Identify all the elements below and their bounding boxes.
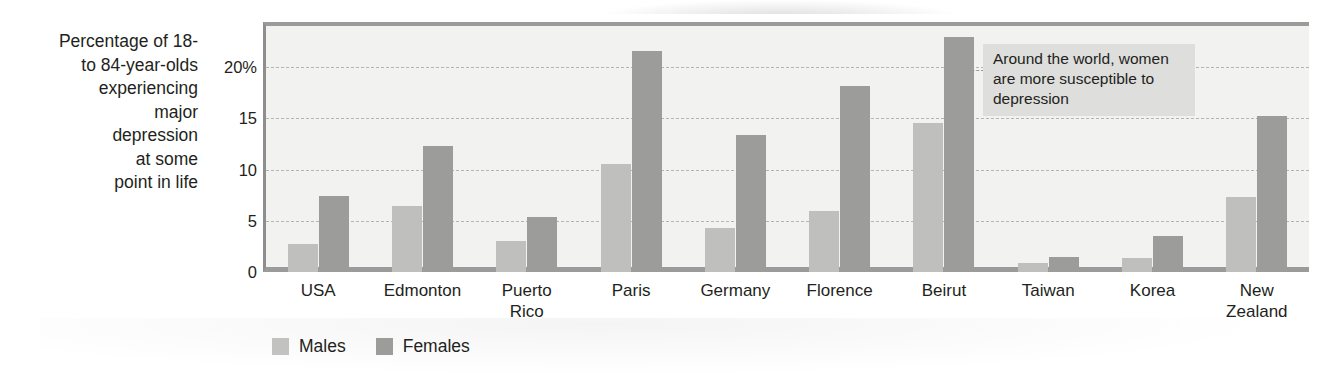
bar-females[interactable] xyxy=(1257,116,1287,272)
bar-males[interactable] xyxy=(705,228,735,272)
bar-group xyxy=(1226,26,1287,272)
x-axis-label: Edmonton xyxy=(370,280,474,301)
bar-males[interactable] xyxy=(496,241,526,272)
y-tick-label-15: 15 xyxy=(197,109,257,128)
legend-label-females: Females xyxy=(403,336,470,357)
x-axis-label: Beirut xyxy=(892,280,996,301)
bar-males[interactable] xyxy=(809,211,839,273)
y-tick-label-20: 20% xyxy=(197,58,257,77)
bar-group xyxy=(288,26,349,272)
bar-females[interactable] xyxy=(736,135,766,272)
bar-females[interactable] xyxy=(1049,257,1079,272)
bar-males[interactable] xyxy=(1122,258,1152,272)
bar-females[interactable] xyxy=(944,37,974,272)
bar-group xyxy=(913,26,974,272)
chart-figure: Percentage of 18- to 84-year-olds experi… xyxy=(0,0,1328,376)
y-axis-tick-labels: 05101520% xyxy=(189,22,257,272)
x-axis-category-labels: USAEdmontonPuerto RicoParisGermanyFloren… xyxy=(266,280,1309,336)
y-tick-label-0: 0 xyxy=(197,263,257,282)
bar-males[interactable] xyxy=(601,164,631,272)
x-axis-label: Germany xyxy=(683,280,787,301)
legend-swatch-males-icon xyxy=(272,338,289,355)
x-axis-label: Korea xyxy=(1100,280,1204,301)
x-axis-label: USA xyxy=(266,280,370,301)
y-tick-label-5: 5 xyxy=(197,211,257,230)
x-axis-label: Florence xyxy=(788,280,892,301)
bar-females[interactable] xyxy=(1153,236,1183,272)
bar-group xyxy=(705,26,766,272)
bar-females[interactable] xyxy=(632,51,662,272)
bar-males[interactable] xyxy=(1226,197,1256,272)
bar-group xyxy=(392,26,453,272)
annotation-callout: Around the world, women are more suscept… xyxy=(983,44,1195,116)
bar-group xyxy=(496,26,557,272)
y-axis-caption: Percentage of 18- to 84-year-olds experi… xyxy=(8,30,198,195)
legend-label-males: Males xyxy=(299,336,346,357)
chart-legend: Males Females xyxy=(272,336,470,357)
scan-artifact-top xyxy=(600,0,960,14)
legend-swatch-females-icon xyxy=(376,338,393,355)
bar-females[interactable] xyxy=(423,146,453,272)
x-axis-label: Puerto Rico xyxy=(475,280,579,322)
x-axis-label: Paris xyxy=(579,280,683,301)
legend-item-females[interactable]: Females xyxy=(376,336,470,357)
y-tick-label-10: 10 xyxy=(197,160,257,179)
bar-females[interactable] xyxy=(319,196,349,272)
bar-group xyxy=(809,26,870,272)
x-axis-label: Taiwan xyxy=(996,280,1100,301)
legend-item-males[interactable]: Males xyxy=(272,336,346,357)
bar-females[interactable] xyxy=(527,217,557,272)
bar-males[interactable] xyxy=(392,206,422,272)
bar-males[interactable] xyxy=(288,244,318,272)
bar-males[interactable] xyxy=(1018,263,1048,272)
bar-females[interactable] xyxy=(840,86,870,272)
annotation-leader-line xyxy=(962,70,984,71)
bar-males[interactable] xyxy=(913,123,943,272)
x-axis-label: New Zealand xyxy=(1205,280,1309,322)
bar-group xyxy=(601,26,662,272)
